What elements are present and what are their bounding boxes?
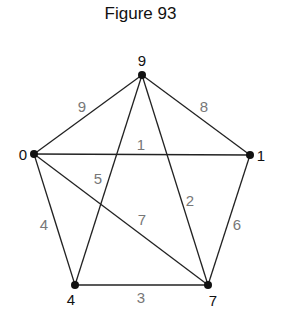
edge-0-1 [34, 154, 250, 155]
edge-weight-0-9: 9 [78, 98, 86, 115]
edge-weight-9-1: 8 [200, 98, 208, 115]
edge-1-7 [208, 155, 250, 285]
edge-weight-0-7: 7 [138, 211, 146, 228]
edge-weight-1-7: 6 [233, 216, 241, 233]
node-label-9: 9 [138, 52, 146, 69]
node-label-4: 4 [67, 291, 75, 308]
edge-9-7 [142, 75, 208, 285]
edge-0-9 [34, 75, 142, 154]
edge-0-7 [34, 154, 208, 285]
nodes-group [30, 71, 254, 289]
node-4 [71, 281, 79, 289]
node-labels-group: 90147 [19, 52, 265, 309]
edge-weight-9-4: 5 [94, 170, 102, 187]
edge-weight-4-7: 3 [137, 289, 145, 306]
node-7 [204, 281, 212, 289]
node-0 [30, 150, 38, 158]
node-9 [138, 71, 146, 79]
weighted-graph: 981527463 90147 [0, 0, 281, 317]
node-label-1: 1 [257, 147, 265, 164]
edge-weight-0-4: 4 [40, 216, 48, 233]
node-label-7: 7 [209, 292, 217, 309]
edge-weight-9-7: 2 [186, 192, 194, 209]
edge-weight-0-1: 1 [137, 136, 145, 153]
node-1 [246, 151, 254, 159]
edges-group [34, 75, 250, 285]
node-label-0: 0 [19, 146, 27, 163]
edge-9-1 [142, 75, 250, 155]
